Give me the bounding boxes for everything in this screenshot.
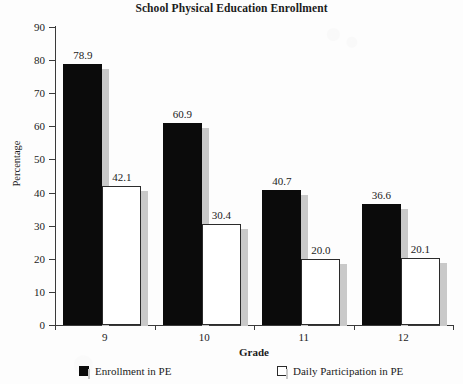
bar-enrollment-in-pe-grade-11 (262, 190, 301, 325)
bar-value-label: 40.7 (256, 176, 307, 187)
x-tick (254, 325, 255, 330)
bar-shadow (241, 229, 248, 326)
bar-chart: School Physical Education Enrollment Per… (0, 0, 463, 384)
x-tick-label-grade-11: 11 (274, 331, 334, 343)
bar-body (262, 190, 301, 325)
legend-label: Enrollment in PE (95, 365, 171, 377)
bar-value-label: 36.6 (356, 190, 407, 201)
y-axis-line (55, 26, 56, 326)
bar-daily-participation-in-pe-grade-9 (102, 186, 141, 325)
y-tick (49, 292, 55, 293)
y-tick (49, 159, 55, 160)
bar-shadow (340, 264, 347, 326)
bar-daily-participation-in-pe-grade-12 (401, 258, 440, 325)
bar-shadow (141, 191, 148, 326)
legend-item-daily-participation-in-pe[interactable]: Daily Participation in PE (277, 365, 403, 377)
bar-body (163, 123, 202, 325)
y-tick-label: 10 (5, 287, 45, 298)
y-tick-label: 80 (5, 55, 45, 66)
bar-body (202, 224, 241, 325)
y-tick-label: 20 (5, 254, 45, 265)
x-tick (453, 325, 454, 330)
bar-body (362, 204, 401, 325)
bar-body (102, 186, 141, 325)
y-tick (49, 27, 55, 28)
y-tick-label: 90 (5, 22, 45, 33)
x-axis-title: Grade (55, 346, 453, 358)
chart-title: School Physical Education Enrollment (0, 2, 463, 14)
chart-legend: Enrollment in PEDaily Participation in P… (55, 365, 453, 381)
bar-body (63, 64, 102, 325)
bar-shadow (440, 263, 447, 326)
bar-value-label: 78.9 (57, 50, 108, 61)
y-tick-label: 30 (5, 221, 45, 232)
x-tick-label-grade-12: 12 (373, 331, 433, 343)
legend-label: Daily Participation in PE (293, 365, 403, 377)
x-tick (155, 325, 156, 330)
y-tick-label: 70 (5, 88, 45, 99)
legend-swatch-icon (277, 366, 287, 376)
bar-body (301, 259, 340, 325)
bar-daily-participation-in-pe-grade-11 (301, 259, 340, 325)
y-tick (49, 126, 55, 127)
y-tick (49, 60, 55, 61)
y-tick (49, 259, 55, 260)
bar-enrollment-in-pe-grade-12 (362, 204, 401, 325)
bar-enrollment-in-pe-grade-9 (63, 64, 102, 325)
y-tick (49, 193, 55, 194)
y-tick-label: 40 (5, 188, 45, 199)
bar-enrollment-in-pe-grade-10 (163, 123, 202, 325)
y-tick (49, 93, 55, 94)
y-tick (49, 226, 55, 227)
x-tick-label-grade-9: 9 (75, 331, 135, 343)
bar-value-label: 60.9 (157, 109, 208, 120)
legend-item-enrollment-in-pe[interactable]: Enrollment in PE (79, 365, 171, 377)
y-tick-label: 0 (5, 320, 45, 331)
x-tick (354, 325, 355, 330)
y-tick-label: 60 (5, 121, 45, 132)
bar-daily-participation-in-pe-grade-10 (202, 224, 241, 325)
x-tick (55, 325, 56, 330)
x-tick-label-grade-10: 10 (174, 331, 234, 343)
y-tick-label: 50 (5, 154, 45, 165)
bar-body (401, 258, 440, 325)
legend-swatch-icon (79, 366, 89, 376)
